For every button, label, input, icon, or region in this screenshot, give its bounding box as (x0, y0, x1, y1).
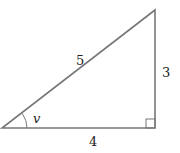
hypotenuse-label: 5 (76, 53, 84, 68)
triangle (2, 10, 155, 128)
vertical-side-label: 3 (162, 65, 170, 80)
angle-arc (22, 114, 27, 129)
right-triangle-diagram: 5 3 4 v (0, 0, 180, 153)
horizontal-side-label: 4 (89, 134, 97, 149)
right-angle-marker (146, 119, 155, 128)
angle-label: v (33, 111, 41, 126)
